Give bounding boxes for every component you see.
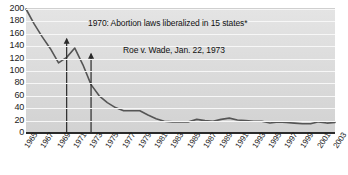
annotation-roe-v-wade-label: Roe v. Wade, Jan. 22, 1973 bbox=[123, 45, 225, 55]
x-axis-tick-label: 1969 bbox=[56, 131, 72, 150]
x-axis-tick-label: 1989 bbox=[218, 131, 234, 150]
x-axis-tick-label: 1991 bbox=[235, 131, 251, 150]
x-axis-tick-label: 1981 bbox=[153, 131, 169, 150]
gridline bbox=[26, 83, 335, 84]
y-axis-tick-label: 60 bbox=[0, 90, 24, 99]
x-axis-tick-label: 1971 bbox=[72, 131, 88, 150]
x-axis-tick-label: 1993 bbox=[251, 131, 267, 150]
annotation-liberalization-label: 1970: Abortion laws liberalized in 15 st… bbox=[88, 18, 247, 28]
x-axis-tick-label: 1965 bbox=[23, 131, 39, 150]
y-axis-tick-label: 100 bbox=[0, 66, 24, 75]
gridline bbox=[26, 9, 335, 10]
y-axis-tick-label: 180 bbox=[0, 16, 24, 25]
x-axis-tick-label: 1985 bbox=[186, 131, 202, 150]
y-axis: 200180160140120100806040200 bbox=[0, 8, 24, 132]
x-axis-tick-label: 1967 bbox=[39, 131, 55, 150]
gridline bbox=[26, 34, 335, 35]
x-axis-tick-label: 1983 bbox=[170, 131, 186, 150]
y-axis-tick-label: 80 bbox=[0, 78, 24, 87]
x-axis-tick-label: 1977 bbox=[121, 131, 137, 150]
annotation-arrows bbox=[64, 38, 94, 133]
x-axis-tick-label: 2001 bbox=[316, 131, 332, 150]
x-axis-tick-label: 1995 bbox=[267, 131, 283, 150]
y-axis-tick-label: 140 bbox=[0, 41, 24, 50]
y-axis-tick-label: 0 bbox=[0, 128, 24, 137]
x-axis-tick-label: 2003 bbox=[332, 131, 348, 150]
gridline bbox=[26, 108, 335, 109]
x-axis-tick-label: 1979 bbox=[137, 131, 153, 150]
y-axis-tick-label: 160 bbox=[0, 28, 24, 37]
x-axis: 1965196719691971197319751977197919811983… bbox=[26, 134, 335, 174]
x-axis-tick-label: 1987 bbox=[202, 131, 218, 150]
annotation-arrow-head-liberalization bbox=[64, 38, 70, 44]
x-axis-tick-label: 1999 bbox=[300, 131, 316, 150]
x-axis-tick-label: 1973 bbox=[88, 131, 104, 150]
gridline bbox=[26, 71, 335, 72]
y-axis-tick-label: 40 bbox=[0, 103, 24, 112]
x-axis-tick-label: 1975 bbox=[104, 131, 120, 150]
y-axis-tick-label: 200 bbox=[0, 4, 24, 13]
gridline bbox=[26, 59, 335, 60]
y-axis-tick-label: 120 bbox=[0, 53, 24, 62]
y-axis-tick-label: 20 bbox=[0, 115, 24, 124]
gridline bbox=[26, 96, 335, 97]
gridline bbox=[26, 121, 335, 122]
x-axis-tick-label: 1997 bbox=[283, 131, 299, 150]
